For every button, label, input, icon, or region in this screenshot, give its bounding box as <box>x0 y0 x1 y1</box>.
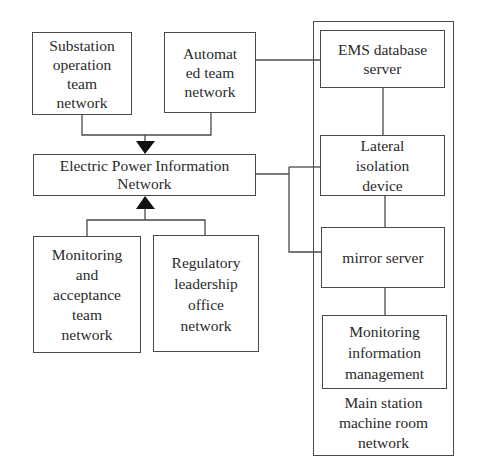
group-label-main-station: Main station machine room network <box>313 393 454 453</box>
arrow-up-icon <box>136 196 155 209</box>
node-ems-database-server: EMS database server <box>320 30 445 88</box>
node-label: Monitoring and acceptance team network <box>52 245 123 345</box>
node-automated-team-network: Automat ed team network <box>164 32 256 113</box>
node-label: Electric Power Information Network <box>60 157 230 193</box>
node-label: Automat ed team network <box>183 44 237 101</box>
connector-top-merge <box>82 112 211 135</box>
node-label: Monitoring information management <box>345 321 424 384</box>
node-regulatory-leadership-office-network: Regulatory leadership office network <box>153 235 259 352</box>
node-monitoring-information-management: Monitoring information management <box>322 315 447 389</box>
connector-bottom-merge <box>87 220 205 236</box>
node-label: Substation operation team network <box>49 36 114 112</box>
node-mirror-server: mirror server <box>321 227 445 288</box>
node-label: EMS database server <box>338 40 427 78</box>
node-label: Regulatory leadership office network <box>172 252 241 336</box>
node-monitoring-acceptance-team-network: Monitoring and acceptance team network <box>33 236 141 353</box>
node-electric-power-information-network: Electric Power Information Network <box>33 154 256 196</box>
node-label: Lateral isolation device <box>356 136 409 196</box>
node-lateral-isolation-device: Lateral isolation device <box>320 135 445 196</box>
node-substation-operation-team-network: Substation operation team network <box>32 32 132 115</box>
node-label: mirror server <box>342 248 423 267</box>
arrow-down-icon <box>136 141 155 154</box>
